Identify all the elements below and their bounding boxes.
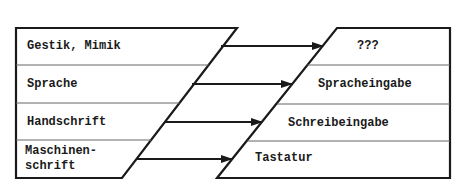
- left-label-maschinenschrift-line2: schrift: [25, 160, 75, 173]
- left-label-sprache: Sprache: [27, 78, 77, 91]
- right-box: [217, 28, 450, 178]
- right-label-tastatur: Tastatur: [255, 152, 313, 165]
- left-label-gestik-mimik: Gestik, Mimik: [27, 40, 121, 53]
- right-label-spracheingabe: Spracheingabe: [318, 78, 412, 91]
- left-label-maschinenschrift-line1: Maschinen-: [25, 145, 97, 158]
- right-label-schreibeingabe: Schreibeingabe: [288, 117, 389, 130]
- right-label-unknown: ???: [357, 40, 379, 53]
- left-label-handschrift: Handschrift: [27, 116, 106, 129]
